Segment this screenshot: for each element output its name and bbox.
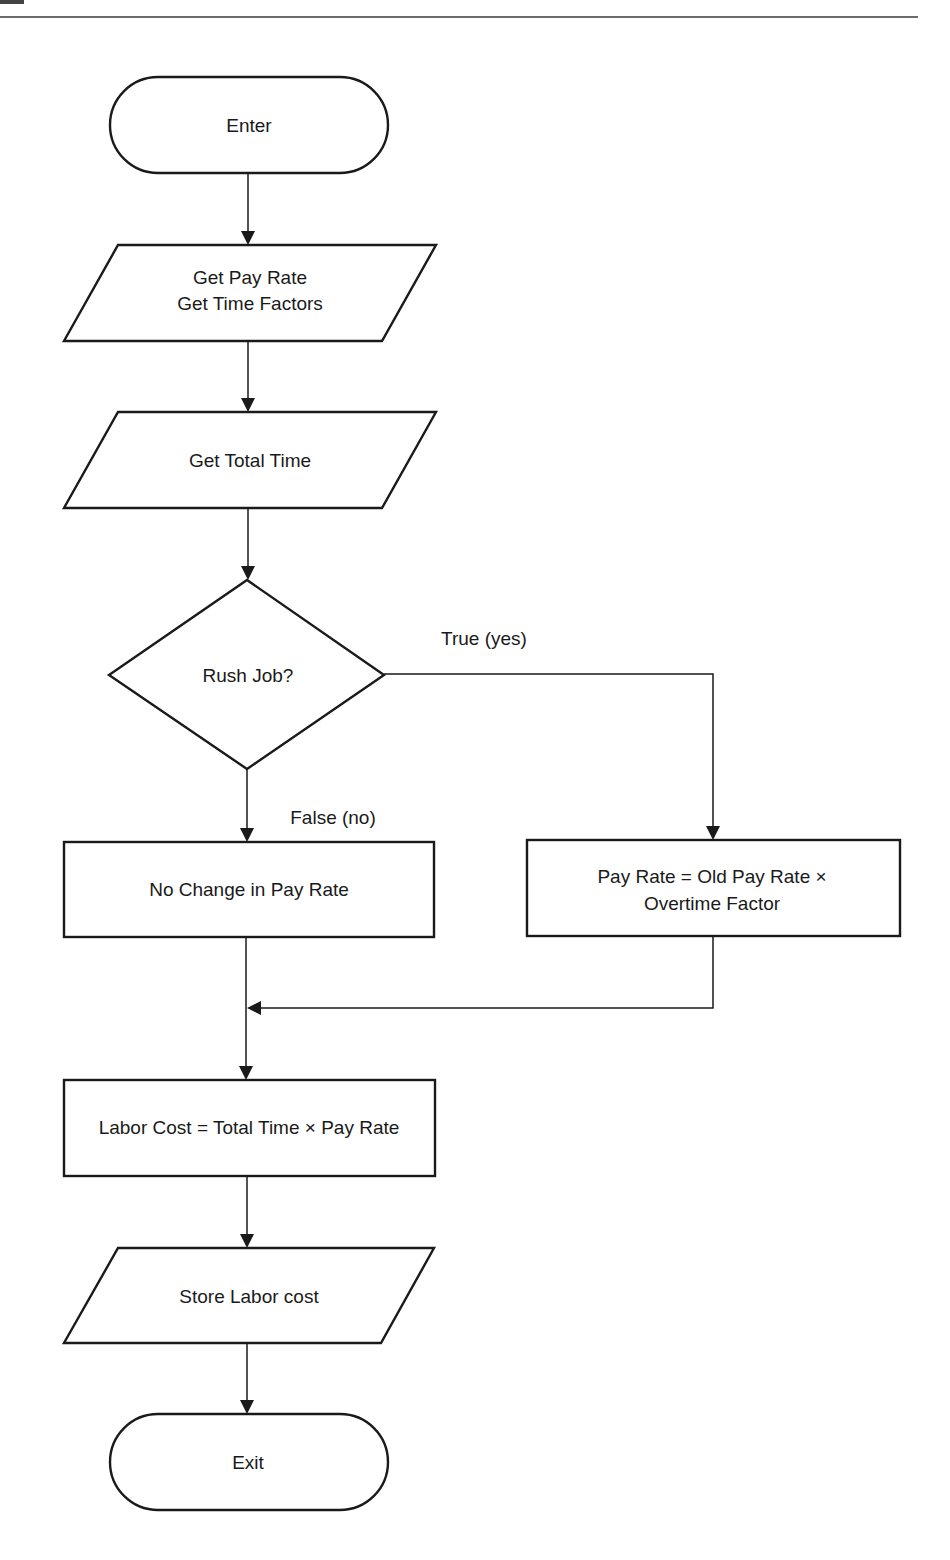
flowchart: Enter Get Pay Rate Get Time Factors Get … (0, 0, 950, 1560)
rush-job-label: Rush Job? (203, 665, 294, 686)
overtime-node: Pay Rate = Old Pay Rate × Overtime Facto… (527, 840, 900, 936)
enter-label: Enter (226, 115, 272, 136)
false-branch-label: False (no) (290, 807, 376, 828)
get-total-time-node: Get Total Time (64, 412, 436, 508)
get-total-label: Get Total Time (189, 450, 311, 471)
get-pay-line-2: Get Time Factors (177, 293, 323, 314)
no-change-label: No Change in Pay Rate (149, 879, 349, 900)
arrow-down-icon (240, 828, 254, 842)
labor-cost-node: Labor Cost = Total Time × Pay Rate (64, 1080, 435, 1176)
exit-node: Exit (110, 1414, 388, 1510)
labor-cost-label: Labor Cost = Total Time × Pay Rate (99, 1117, 400, 1138)
arrow-down-icon (241, 566, 255, 580)
true-branch-label: True (yes) (441, 628, 527, 649)
no-change-node: No Change in Pay Rate (64, 842, 434, 937)
overtime-line-1: Pay Rate = Old Pay Rate × (597, 866, 826, 887)
rush-job-decision: Rush Job? (109, 580, 384, 769)
arrow-left-icon (247, 1001, 261, 1015)
arrow-down-icon (706, 826, 720, 840)
get-pay-line-1: Get Pay Rate (193, 267, 307, 288)
overtime-line-2: Overtime Factor (644, 893, 781, 914)
store-label: Store Labor cost (179, 1286, 319, 1307)
store-labor-cost-node: Store Labor cost (64, 1248, 434, 1343)
exit-label: Exit (232, 1452, 264, 1473)
arrow-down-icon (241, 231, 255, 245)
get-pay-rate-node: Get Pay Rate Get Time Factors (64, 245, 436, 341)
merge-connector (261, 936, 713, 1008)
true-branch-connector (384, 674, 713, 827)
arrow-down-icon (240, 1234, 254, 1248)
enter-node: Enter (110, 77, 388, 173)
arrow-down-icon (241, 398, 255, 412)
arrow-down-icon (239, 1066, 253, 1080)
arrow-down-icon (240, 1400, 254, 1414)
